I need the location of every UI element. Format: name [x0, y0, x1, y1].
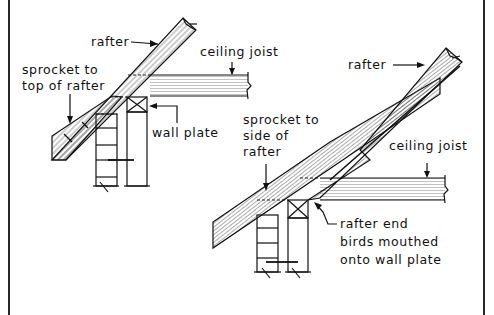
right-note-line3: onto wall plate	[340, 252, 442, 267]
right-sprocket-label-line1: sprocket to	[243, 112, 319, 127]
left-outer-wall	[124, 112, 150, 186]
right-inner-wall	[254, 215, 281, 278]
left-wall-plate-label: wall plate	[152, 125, 218, 140]
right-ceiling-joist-label: ceiling joist	[389, 138, 468, 153]
left-wall-plate	[127, 97, 147, 112]
right-rafter-label: rafter	[348, 57, 387, 72]
right-sprocket-label-line3: rafter	[243, 144, 282, 159]
right-note-line2: birds mouthed	[340, 234, 439, 249]
left-sprocket-label-line1: sprocket to	[22, 62, 98, 77]
left-detail: rafter ceiling joist sprocket to top of …	[22, 18, 279, 192]
left-ceiling-joist-label: ceiling joist	[200, 44, 279, 59]
left-rafter-label: rafter	[91, 34, 130, 49]
roof-eaves-diagram: rafter ceiling joist sprocket to top of …	[0, 0, 494, 315]
right-sprocket-label-line2: side of	[243, 128, 289, 143]
right-wall-plate	[288, 200, 308, 218]
left-sprocket-label-line2: top of rafter	[22, 78, 105, 93]
right-detail: rafter sprocket to side of rafter ceilin…	[213, 48, 468, 278]
right-outer-wall	[285, 218, 311, 278]
right-note-line1: rafter end	[340, 216, 408, 231]
left-ceiling-joist	[150, 72, 251, 99]
